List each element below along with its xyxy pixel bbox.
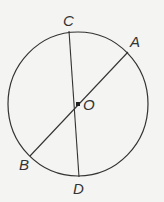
label-a: A (129, 33, 140, 50)
label-o: O (83, 96, 95, 113)
label-b: B (19, 156, 29, 173)
diagram-svg: C A O B D (0, 0, 164, 202)
center-point (76, 102, 80, 106)
circle-diagram: C A O B D (0, 0, 164, 202)
label-d: D (73, 180, 84, 197)
label-c: C (63, 12, 74, 29)
